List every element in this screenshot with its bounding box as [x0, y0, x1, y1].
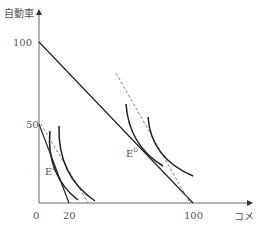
x-axis-label: コメ [234, 211, 254, 222]
indifference-curve-right-outer [148, 117, 193, 176]
point-label-right: ED [126, 146, 138, 159]
point-label-left: EI [45, 164, 55, 177]
y-axis-label: 自動車 [4, 7, 34, 19]
y-tick-50: 50 [26, 119, 39, 130]
budget-line-large [39, 42, 193, 203]
origin-label: 0 [33, 210, 39, 221]
x-tick-20: 20 [63, 210, 76, 221]
x-tick-100: 100 [184, 210, 203, 221]
y-tick-100: 100 [13, 37, 32, 48]
diagram: 自動車 コメ 100 50 0 20 100 EI ED [0, 0, 263, 229]
